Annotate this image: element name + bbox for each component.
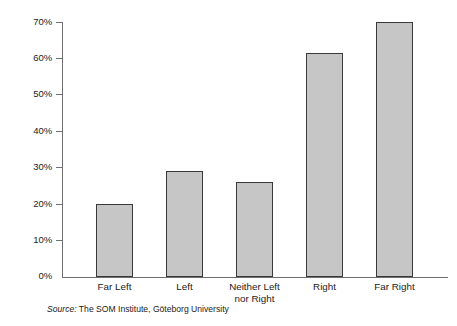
y-axis-label-group: 70% 60% 50% 40% 30% 20% 10% 0% [0,18,52,277]
source-note-text: The SOM Institute, Göteborg University [77,304,229,314]
bar-neither[interactable] [236,182,273,277]
y-axis-tick-label: 20% [33,199,52,209]
y-axis-tick-label: 30% [33,162,52,172]
y-axis-tick-label: 50% [33,89,52,99]
bar-right[interactable] [306,53,343,277]
source-note-prefix: Source: [47,304,77,314]
x-axis-line [62,277,448,278]
source-note: Source: The SOM Institute, Göteborg Univ… [47,304,229,315]
bar-chart-figure: 70% 60% 50% 40% 30% 20% 10% 0% Far Left … [0,0,457,326]
bar-far-left[interactable] [96,204,133,277]
bars-layer [62,18,448,277]
y-axis-tick-label: 60% [33,53,52,63]
y-axis-tick-label: 40% [33,126,52,136]
plot-area [62,18,448,277]
y-axis-tick-label: 10% [33,235,52,245]
y-axis-tick-label: 70% [33,17,52,27]
y-axis-tick-label: 0% [38,271,52,281]
bar-left[interactable] [166,171,203,277]
bar-far-right[interactable] [376,22,413,277]
x-axis-category-label: Far Right [352,281,438,293]
